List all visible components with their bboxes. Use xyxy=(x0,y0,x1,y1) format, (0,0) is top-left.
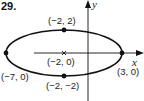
center-label: (−2, 0) xyxy=(47,56,75,67)
bottom-point-icon xyxy=(62,74,67,79)
right-vertex-label: (3, 0) xyxy=(117,66,139,77)
y-axis-label: y xyxy=(91,0,97,10)
top-point-icon xyxy=(62,28,67,33)
ellipse-graph: 29. x y (−2, 0) (−2, 2) (−2, −2) (−7, 0)… xyxy=(0,0,144,101)
left-vertex-icon xyxy=(4,51,9,56)
x-axis-arrow-icon xyxy=(136,50,144,56)
y-axis-arrow-icon xyxy=(85,0,91,8)
right-vertex-icon xyxy=(120,51,125,56)
top-point-label: (−2, 2) xyxy=(48,15,76,26)
problem-number: 29. xyxy=(1,0,16,12)
bottom-point-label: (−2, −2) xyxy=(46,80,79,91)
y-axis xyxy=(85,0,91,101)
left-vertex-label: (−7, 0) xyxy=(1,71,29,82)
